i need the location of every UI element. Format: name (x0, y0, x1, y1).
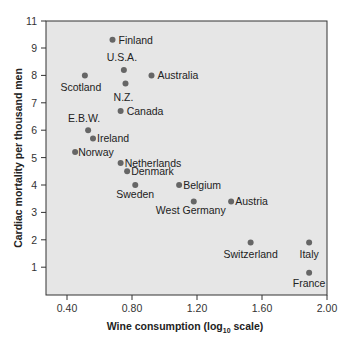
point-label: Canada (127, 105, 164, 117)
point-label: West Germany (156, 204, 227, 216)
point-label: Norway (78, 146, 114, 158)
y-tick-label: 8 (31, 69, 37, 81)
x-tick-label: 2.00 (317, 302, 338, 314)
point-marker (124, 168, 130, 174)
x-axis-title: Wine consumption (log10 scale) (107, 320, 263, 334)
point-marker (121, 67, 127, 73)
point-marker (118, 160, 124, 166)
point-label: France (293, 277, 326, 289)
point-label: E.B.W. (68, 112, 100, 124)
y-tick-label: 11 (26, 15, 37, 27)
point-label: Scotland (60, 81, 101, 93)
y-axis-title: Cardiac mortality per thousand men (12, 68, 24, 248)
y-tick-label: 2 (31, 234, 37, 246)
point-label: Italy (299, 248, 319, 260)
point-marker (176, 182, 182, 188)
point-marker (306, 270, 312, 276)
point-marker (149, 72, 155, 78)
x-axis: 0.400.801.201.602.00 (57, 295, 338, 314)
point-label: Ireland (97, 132, 129, 144)
point-marker (248, 240, 254, 246)
y-axis: 12345678911 (26, 15, 46, 273)
x-tick-label: 1.60 (252, 302, 273, 314)
point-marker (306, 240, 312, 246)
point-marker (118, 108, 124, 114)
point-label: Finland (119, 34, 154, 46)
point-label: Switzerland (223, 248, 277, 260)
point-marker (82, 72, 88, 78)
point-label: Denmark (131, 165, 174, 177)
point-label: U.S.A. (107, 51, 137, 63)
y-tick-label: 3 (31, 206, 37, 218)
point-label: Australia (158, 69, 199, 81)
point-marker (85, 127, 91, 133)
data-point: Norway (72, 146, 114, 158)
point-label: Sweden (116, 188, 154, 200)
point-marker (90, 135, 96, 141)
y-tick-label: 5 (31, 152, 37, 164)
point-label: Austria (235, 195, 268, 207)
point-label: Belgium (183, 179, 221, 191)
y-tick-label: 7 (31, 97, 37, 109)
y-tick-label: 9 (31, 42, 37, 54)
x-tick-label: 0.80 (122, 302, 143, 314)
data-point: Belgium (176, 179, 221, 191)
point-marker (110, 37, 116, 43)
data-point: Denmark (124, 165, 174, 177)
point-marker (123, 81, 129, 87)
y-tick-label: 1 (31, 261, 37, 273)
point-marker (228, 198, 234, 204)
x-tick-label: 0.40 (57, 302, 78, 314)
x-tick-label: 1.20 (187, 302, 208, 314)
point-label: N.Z. (114, 91, 134, 103)
scatter-chart: 12345678911 0.400.801.201.602.00 Finland… (0, 0, 346, 341)
y-tick-label: 4 (31, 179, 37, 191)
y-tick-label: 6 (31, 124, 37, 136)
